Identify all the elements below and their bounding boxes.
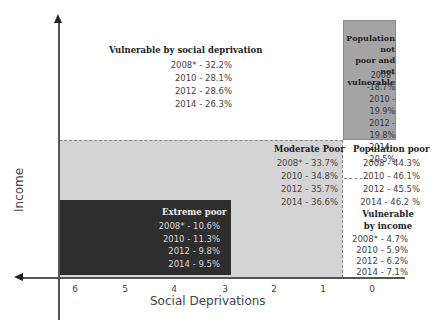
x-tick: 5	[117, 284, 133, 294]
value-line: 2008* - 4.7%	[346, 234, 408, 245]
arrow-left-icon	[14, 273, 23, 281]
x-tick: 0	[364, 284, 380, 294]
vulnerable-income-values: 2008* - 4.7% 2010 - 5.9% 2012 - 6.2% 201…	[346, 234, 408, 278]
value-line: 2012 - 9.8%	[150, 245, 220, 258]
value-line: 2014 - 26.3%	[160, 98, 232, 111]
value-line: 2014 - 36.6%	[264, 196, 338, 209]
value-line: 2010 - 19.9%	[343, 94, 395, 118]
value-line: 2010 - 28.1%	[160, 72, 232, 85]
value-line: 2012 - 35.7%	[264, 183, 338, 196]
value-line: 2012 - 6.2%	[346, 256, 408, 267]
x-tick: 2	[266, 284, 282, 294]
value-line: 2012 - 45.5%	[346, 183, 420, 196]
title-line: by income	[360, 220, 416, 232]
title-line: Population not	[343, 33, 395, 55]
vulnerable-income-title: Vulnerable by income	[360, 208, 416, 232]
x-tick: 1	[315, 284, 331, 294]
population-poor-values: 2008 - 44.3% 2010 - 46.1% 2012 - 45.5% 2…	[346, 157, 420, 209]
value-line: 2014 - 7.1%	[346, 267, 408, 278]
y-axis-label: Income	[12, 168, 26, 212]
x-tick: 4	[166, 284, 182, 294]
vulnerable-social-title: Vulnerable by social deprivation	[109, 45, 262, 55]
x-tick: 6	[67, 284, 83, 294]
moderate-poor-values: 2008* - 33.7% 2010 - 34.8% 2012 - 35.7% …	[264, 157, 338, 209]
value-line: 2010 - 46.1%	[346, 170, 420, 183]
value-line: 2008* - 10.6%	[150, 220, 220, 233]
value-line: 2014 - 9.5%	[150, 258, 220, 271]
x-axis-label: Social Deprivations	[150, 294, 266, 308]
extreme-poor-values: 2008* - 10.6% 2010 - 11.3% 2012 - 9.8% 2…	[150, 220, 220, 270]
value-line: 2010 - 11.3%	[150, 233, 220, 246]
value-line: 2012 - 28.6%	[160, 85, 232, 98]
vulnerable-social-values: 2008* - 32.2% 2010 - 28.1% 2012 - 28.6% …	[160, 59, 232, 111]
title-line: Vulnerable	[360, 208, 416, 220]
x-tick: 3	[217, 284, 233, 294]
value-line: 2008* -18.7%	[343, 70, 395, 94]
moderate-poor-title: Moderate Poor	[274, 144, 345, 154]
population-poor-title: Population poor	[353, 144, 429, 154]
extreme-poor-title: Extreme poor	[162, 207, 226, 217]
value-line: 2010 - 5.9%	[346, 245, 408, 256]
value-line: 2008* - 32.2%	[160, 59, 232, 72]
income-axis	[58, 22, 60, 320]
value-line: 2008* - 33.7%	[264, 157, 338, 170]
value-line: 2010 - 34.8%	[264, 170, 338, 183]
value-line: 2012 - 19.8%	[343, 118, 395, 142]
arrow-up-icon	[54, 14, 62, 23]
value-line: 2008 - 44.3%	[346, 157, 420, 170]
